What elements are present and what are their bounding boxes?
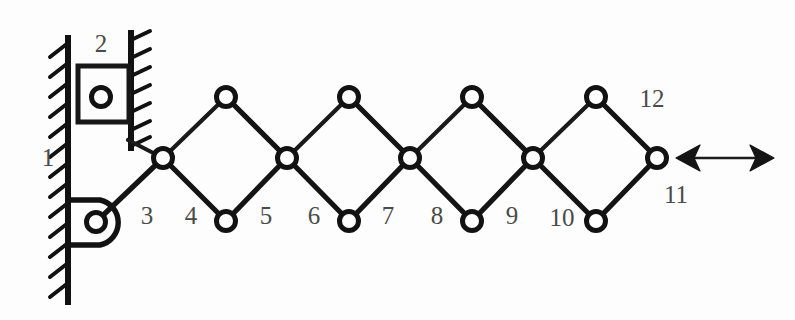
label-11: 11 bbox=[664, 181, 688, 208]
joint-mid-1[interactable] bbox=[154, 149, 173, 168]
joint-mid-3[interactable] bbox=[401, 149, 420, 168]
label-2: 2 bbox=[95, 30, 108, 57]
joint-bot-2[interactable] bbox=[340, 212, 359, 231]
link-mid4-top4 bbox=[533, 97, 596, 158]
label-6: 6 bbox=[308, 202, 321, 229]
mechanism-canvas: 1 2 3 4 5 6 7 8 9 10 11 12 bbox=[0, 0, 795, 320]
link-top2-mid3 bbox=[349, 97, 410, 158]
link-top3-mid4 bbox=[472, 97, 533, 158]
joint-top-1[interactable] bbox=[217, 88, 236, 107]
link-top1-mid2 bbox=[226, 97, 287, 158]
joint-bot-1[interactable] bbox=[217, 212, 236, 231]
label-4: 4 bbox=[185, 202, 198, 229]
link-mid2-top2 bbox=[287, 97, 349, 158]
label-10: 10 bbox=[550, 204, 575, 231]
joint-top-2[interactable] bbox=[340, 88, 359, 107]
joint-top-4[interactable] bbox=[587, 88, 606, 107]
joint-mid-4[interactable] bbox=[524, 149, 543, 168]
joint-top-3[interactable] bbox=[463, 88, 482, 107]
joint-mid-2[interactable] bbox=[278, 149, 297, 168]
label-1: 1 bbox=[42, 144, 55, 171]
label-7: 7 bbox=[382, 202, 395, 229]
joint-ground-pivot[interactable] bbox=[87, 213, 106, 232]
joints bbox=[87, 88, 667, 232]
ground-walls bbox=[50, 31, 150, 302]
joint-mid-5[interactable] bbox=[648, 149, 667, 168]
link-bot1-mid2 bbox=[226, 158, 287, 221]
label-3: 3 bbox=[141, 202, 154, 229]
link-bot4-mid5 bbox=[596, 158, 657, 221]
link-bot3-mid4 bbox=[472, 158, 533, 221]
joint-bot-3[interactable] bbox=[463, 212, 482, 231]
label-8: 8 bbox=[431, 202, 444, 229]
mechanism-diagram: 1 2 3 4 5 6 7 8 9 10 11 12 bbox=[0, 0, 795, 320]
joint-bot-4[interactable] bbox=[587, 212, 606, 231]
link-bot2-mid3 bbox=[349, 158, 410, 221]
link-mid1-top1 bbox=[163, 97, 226, 158]
link-mid3-top3 bbox=[410, 97, 472, 158]
output-motion-arrow bbox=[676, 145, 774, 171]
label-9: 9 bbox=[506, 202, 519, 229]
label-5: 5 bbox=[260, 202, 273, 229]
joint-slider-pivot[interactable] bbox=[92, 88, 111, 107]
label-12: 12 bbox=[640, 85, 665, 112]
wall-slot-right bbox=[131, 31, 150, 148]
